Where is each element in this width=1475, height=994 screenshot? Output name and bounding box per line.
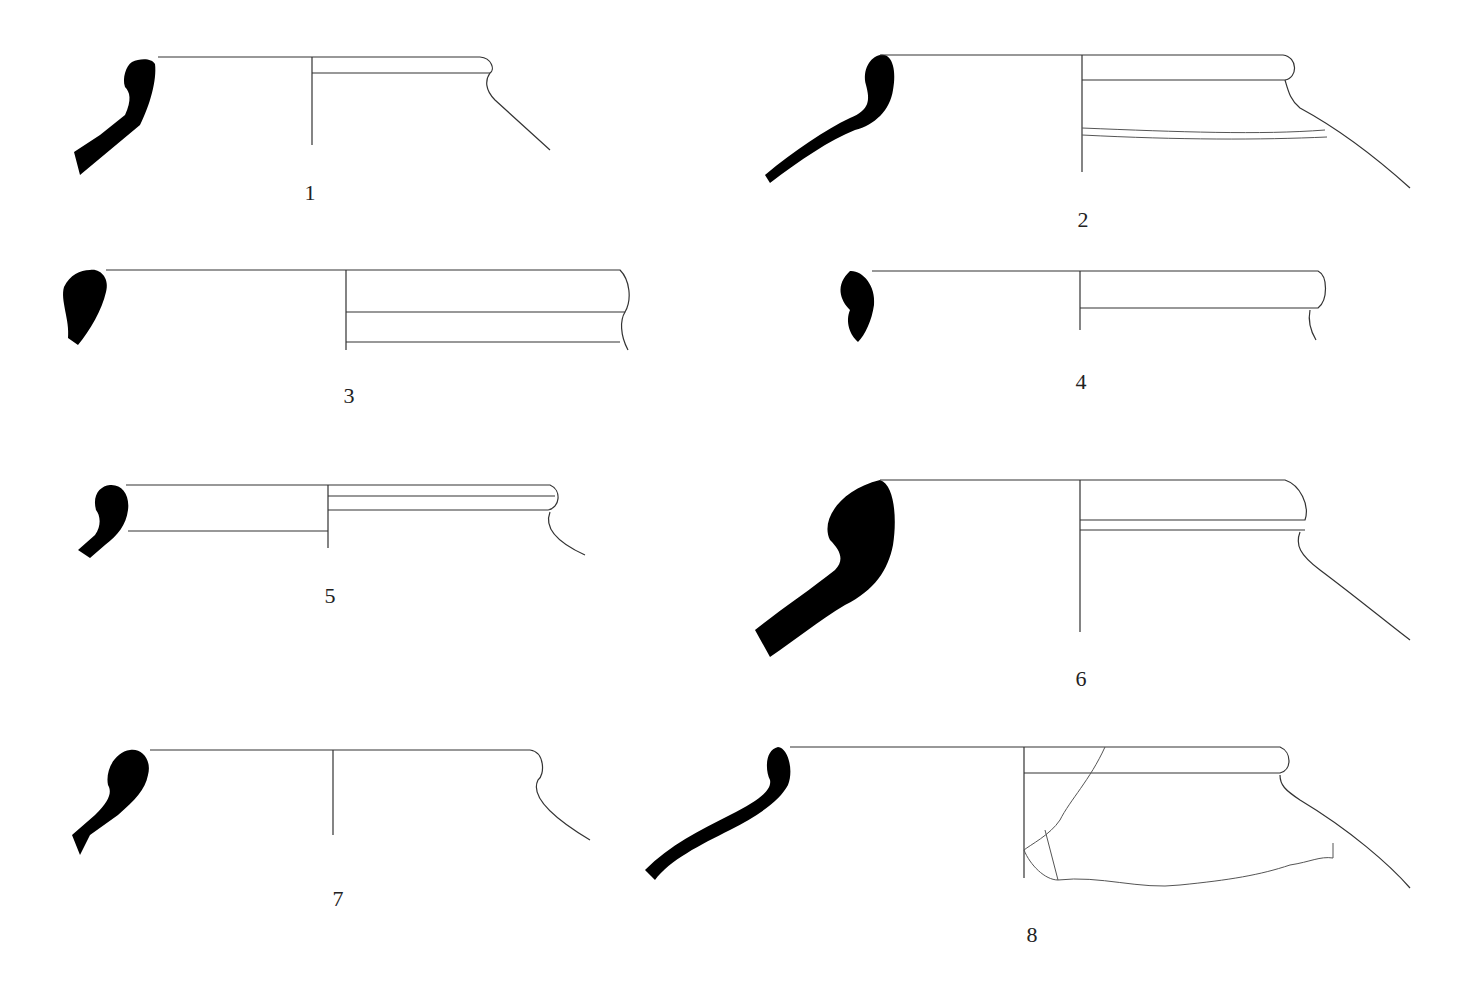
vessel-4-drawing: [841, 271, 1326, 342]
vessel-7-drawing: [72, 750, 590, 855]
vessel-5-label: 5: [325, 583, 336, 609]
vessel-2-label: 2: [1078, 207, 1089, 233]
vessel-5-section: [78, 485, 128, 558]
vessel-1-drawing: [74, 57, 550, 175]
vessel-1-label: 1: [305, 180, 316, 206]
vessel-8-label: 8: [1027, 922, 1038, 948]
vessel-6-label: 6: [1076, 666, 1087, 692]
vessel-7-label: 7: [333, 886, 344, 912]
vessel-3-section: [63, 270, 107, 345]
vessel-8-drawing: [645, 747, 1410, 888]
vessel-2-section: [765, 55, 894, 183]
pottery-drawing-canvas: [0, 0, 1475, 994]
vessel-4-section: [841, 271, 875, 342]
vessel-2-drawing: [765, 55, 1410, 188]
vessel-6-drawing: [755, 480, 1410, 657]
vessel-8-section: [645, 747, 790, 880]
vessel-6-section: [755, 480, 895, 657]
vessel-4-label: 4: [1076, 369, 1087, 395]
vessel-7-section: [72, 750, 149, 855]
vessel-3-label: 3: [344, 383, 355, 409]
vessel-3-drawing: [63, 270, 629, 350]
vessel-1-section: [74, 59, 155, 175]
vessel-5-drawing: [78, 485, 585, 558]
